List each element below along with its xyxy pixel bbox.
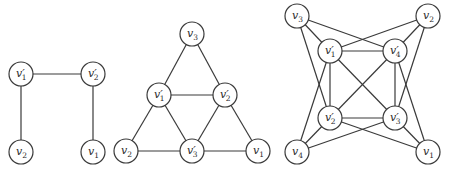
graph-3-edges bbox=[297, 16, 428, 152]
graph-node: v1 bbox=[81, 140, 105, 164]
graph-node: v3 bbox=[285, 4, 309, 28]
graph-1-nodes: v′1v′2v2v1 bbox=[9, 62, 105, 164]
graph-node: v1 bbox=[246, 139, 270, 163]
graph-node: v1 bbox=[416, 140, 440, 164]
graph-node: v′2 bbox=[213, 83, 237, 107]
graph-node: v′1 bbox=[318, 39, 342, 63]
graph-2-edges bbox=[126, 34, 258, 151]
graph-node: v3 bbox=[180, 22, 204, 46]
graph-node: v′1 bbox=[147, 83, 171, 107]
graph-node: v′4 bbox=[383, 39, 407, 63]
graph-node: v′3 bbox=[180, 139, 204, 163]
graph-node: v4 bbox=[285, 140, 309, 164]
graph-1-edges bbox=[21, 74, 93, 152]
graph-node: v2 bbox=[114, 139, 138, 163]
graph-figure: v′1v′2v2v1v3v′1v′2v2v′3v1v3v2v′1v′4v′2v′… bbox=[0, 0, 450, 172]
graph-node: v′3 bbox=[383, 106, 407, 130]
graph-node: v′1 bbox=[9, 62, 33, 86]
graph-node: v′2 bbox=[318, 106, 342, 130]
nodes-layer: v′1v′2v2v1v3v′1v′2v2v′3v1v3v2v′1v′4v′2v′… bbox=[9, 4, 440, 164]
graph-node: v2 bbox=[9, 140, 33, 164]
graph-node: v′2 bbox=[81, 62, 105, 86]
graph-2-nodes: v3v′1v′2v2v′3v1 bbox=[114, 22, 270, 163]
graph-node: v2 bbox=[416, 4, 440, 28]
